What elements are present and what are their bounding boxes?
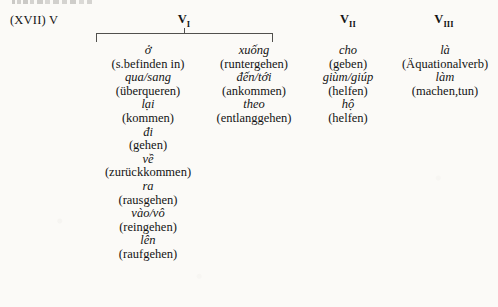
lexical-entry: về(zurückkommen) (105, 153, 191, 180)
lexical-entry: đi(gehen) (105, 126, 191, 153)
entry-word: giùm/giúp (323, 71, 374, 85)
entry-gloss: (s.befinden in) (105, 58, 191, 72)
entry-gloss: (ankommen) (217, 85, 292, 99)
entry-gloss: (runtergehen) (217, 58, 292, 72)
entry-gloss: (raufgehen) (105, 248, 191, 262)
word-column-v2: cho(geben)giùm/giúp(helfen)hộ(helfen) (323, 44, 374, 126)
column-header-v2-base: V (340, 12, 349, 26)
entry-gloss: (rausgehen) (105, 194, 191, 208)
entry-gloss: (geben) (323, 58, 374, 72)
entry-word: lại (105, 98, 191, 112)
lexical-entry: hộ(helfen) (323, 98, 374, 125)
lexical-entry: ra(rausgehen) (105, 180, 191, 207)
column-header-v2-subscript: II (349, 19, 356, 29)
entry-gloss: (machen,tun) (402, 85, 488, 99)
column-header-v3-base: V (434, 12, 443, 26)
column-header-v2: VII (340, 12, 356, 29)
word-column-v1b: xuống(runtergehen)đến/tới(ankommen)theo(… (217, 44, 292, 126)
lexical-entry: theo(entlanggehen) (217, 98, 292, 125)
entry-word: hộ (323, 98, 374, 112)
entry-gloss: (kommen) (105, 112, 191, 126)
column-header-v1: VI (178, 12, 190, 29)
entry-gloss: (überqueren) (105, 85, 191, 99)
entry-gloss: (zurückkommen) (105, 166, 191, 180)
entry-gloss: (gehen) (105, 139, 191, 153)
entry-word: theo (217, 98, 292, 112)
lexical-entry: làm(machen,tun) (402, 71, 488, 98)
bracket-right-tick (272, 33, 273, 42)
bracket-horizontal-bar (96, 33, 273, 34)
lexical-entry: qua/sang(überqueren) (105, 71, 191, 98)
lexical-entry: lên(raufgehen) (105, 234, 191, 261)
lexical-entry: xuống(runtergehen) (217, 44, 292, 71)
entry-word: xuống (217, 44, 292, 58)
entry-gloss: (reingehen) (105, 221, 191, 235)
entry-word: là (402, 44, 488, 58)
entry-gloss: (helfen) (323, 85, 374, 99)
column-header-v3-subscript: III (443, 19, 453, 29)
entry-gloss: (Äquationalverb) (402, 58, 488, 72)
column-header-v1-base: V (178, 12, 187, 26)
entry-gloss: (entlanggehen) (217, 112, 292, 126)
lexical-entry: là(Äquationalverb) (402, 44, 488, 71)
word-column-v3: là(Äquationalverb)làm(machen,tun) (402, 44, 488, 98)
entry-word: ở (105, 44, 191, 58)
entry-word: qua/sang (105, 71, 191, 85)
column-header-v3: VIII (434, 12, 453, 29)
bracket-left-tick (96, 33, 97, 42)
lexical-entry: cho(geben) (323, 44, 374, 71)
entry-word: đến/tới (217, 71, 292, 85)
column-header-row: VI VII VIII (0, 12, 498, 30)
word-column-v1a: ở(s.befinden in)qua/sang(überqueren)lại(… (105, 44, 191, 262)
lexical-entry: giùm/giúp(helfen) (323, 71, 374, 98)
entry-word: cho (323, 44, 374, 58)
lexical-entry: lại(kommen) (105, 98, 191, 125)
lexical-entry: vào/vô(reingehen) (105, 207, 191, 234)
entry-word: về (105, 153, 191, 167)
cut-off-text-remnant (12, 0, 98, 4)
entry-gloss: (helfen) (323, 112, 374, 126)
entry-word: ra (105, 180, 191, 194)
entry-word: đi (105, 126, 191, 140)
entry-word: vào/vô (105, 207, 191, 221)
v1-grouping-bracket (96, 32, 273, 43)
entry-word: làm (402, 71, 488, 85)
entry-word: lên (105, 234, 191, 248)
lexical-entry: ở(s.befinden in) (105, 44, 191, 71)
lexical-entry: đến/tới(ankommen) (217, 71, 292, 98)
column-header-v1-subscript: I (187, 19, 190, 29)
